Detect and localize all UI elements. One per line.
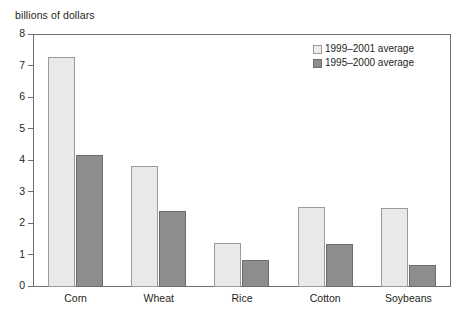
y-tick-label: 3	[19, 185, 25, 198]
bar-group	[200, 35, 283, 287]
y-tick-label: 8	[19, 27, 25, 40]
x-axis-label: Rice	[200, 291, 283, 305]
x-axis-label: Wheat	[117, 291, 200, 305]
y-tick-mark	[28, 286, 33, 287]
y-tick-label: 1	[19, 248, 25, 261]
x-axis-label: Corn	[34, 291, 117, 305]
y-axis: 876543210	[0, 34, 33, 287]
legend-label: 1999–2001 average	[325, 43, 414, 55]
bar-group	[34, 35, 117, 287]
legend: 1999–2001 average1995–2000 average	[313, 43, 414, 69]
y-tick-mark	[28, 254, 33, 255]
bar	[214, 243, 241, 287]
legend-item: 1999–2001 average	[313, 43, 414, 55]
bar-group	[117, 35, 200, 287]
bar	[242, 260, 269, 287]
y-tick-mark	[28, 34, 33, 35]
y-tick-mark	[28, 97, 33, 98]
y-tick-mark	[28, 128, 33, 129]
y-tick-mark	[28, 65, 33, 66]
bar-group	[284, 35, 367, 287]
y-tick-label: 0	[19, 279, 25, 292]
bar-group	[367, 35, 450, 287]
y-tick-label: 4	[19, 153, 25, 166]
y-tick-label: 6	[19, 90, 25, 103]
y-tick-label: 7	[19, 59, 25, 72]
bar	[48, 57, 75, 287]
y-tick-label: 2	[19, 216, 25, 229]
bars-layer	[34, 35, 450, 287]
x-axis-label: Cotton	[284, 291, 367, 305]
y-tick-label: 5	[19, 122, 25, 135]
legend-item: 1995–2000 average	[313, 57, 414, 69]
y-tick-mark	[28, 191, 33, 192]
legend-swatch-icon	[313, 59, 322, 68]
x-axis-labels: CornWheatRiceCottonSoybeans	[34, 291, 450, 311]
bar-chart: billions of dollars 876543210 CornWheatR…	[0, 0, 464, 324]
y-tick-mark	[28, 160, 33, 161]
bar	[326, 244, 353, 287]
bar	[381, 208, 408, 287]
bar	[298, 207, 325, 287]
legend-swatch-icon	[313, 45, 322, 54]
y-axis-title: billions of dollars	[15, 9, 95, 21]
bar	[131, 166, 158, 287]
bar	[409, 265, 436, 287]
bar	[159, 211, 186, 287]
y-tick-mark	[28, 223, 33, 224]
bar	[76, 155, 103, 287]
legend-label: 1995–2000 average	[325, 57, 414, 69]
x-axis-label: Soybeans	[367, 291, 450, 305]
